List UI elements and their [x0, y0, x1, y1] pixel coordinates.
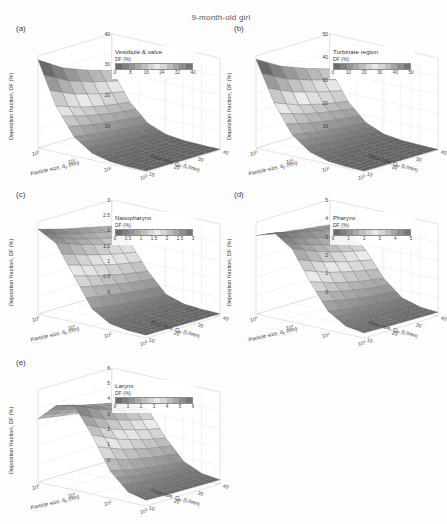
colorbar-ticks: 01020304050 [333, 70, 411, 77]
colorbar-segment [186, 398, 192, 403]
colorbar-tick: 0.5 [125, 236, 131, 241]
y-axis-tick: 5 [310, 197, 328, 203]
y-axis-tick: 0.5 [92, 273, 110, 279]
colorbar-tick: 0 [114, 404, 117, 409]
colorbar-tick: 5 [410, 236, 413, 241]
colorbar-tick: 2.5 [177, 236, 183, 241]
colorbar [333, 63, 411, 70]
panel-d: (d)Deposition fraction, DF (%)5432101001… [222, 188, 440, 348]
colorbar-tick: 2 [140, 404, 143, 409]
y-axis-tick: 6 [92, 365, 110, 371]
y-axis-tick: 10 [310, 123, 328, 129]
y-axis-tick: 3 [92, 411, 110, 417]
y-axis-tick: 30 [92, 61, 110, 67]
y-axis-tick: 3 [92, 197, 110, 203]
colorbar-tick: 0 [114, 70, 117, 75]
legend-unit-label: DF (%) [115, 222, 193, 228]
y-axis-tick: 40 [92, 31, 110, 37]
colorbar [115, 229, 193, 236]
panel-e: (e)Deposition fraction, DF (%)6543210100… [4, 356, 222, 518]
legend-region-title: Larynx [115, 382, 193, 389]
colorbar-tick: 3 [192, 236, 195, 241]
panel-b: (b)Deposition fraction, DF (%)5040302010… [222, 22, 440, 182]
y-axis-label: Deposition fraction, DF (%) [8, 206, 14, 306]
y-axis-tick: 5 [92, 380, 110, 386]
y-axis-label: Deposition fraction, DF (%) [8, 40, 14, 140]
y-axis-tick: 1 [92, 258, 110, 264]
y-axis-tick: 0 [310, 289, 328, 295]
legend-unit-label: DF (%) [115, 390, 193, 396]
legend: PharynxDF (%)012345 [330, 212, 414, 245]
colorbar [333, 229, 411, 236]
y-axis-tick: 2.5 [92, 212, 110, 218]
legend: Vestibule & valveDF (%)0816243240 [112, 46, 196, 79]
y-axis-tick: 20 [310, 100, 328, 106]
legend-unit-label: DF (%) [115, 56, 193, 62]
colorbar-tick: 3 [153, 404, 156, 409]
colorbar-segment [186, 64, 192, 69]
y-axis-label: Deposition fraction, DF (%) [226, 206, 232, 306]
y-axis-tick: 2 [310, 252, 328, 258]
legend-region-title: Turbinate region [333, 48, 411, 55]
y-axis-tick: 2 [92, 227, 110, 233]
colorbar-ticks: 00.511.522.53 [115, 236, 193, 243]
legend-unit-label: DF (%) [333, 222, 411, 228]
colorbar-tick: 2 [363, 236, 366, 241]
z-axis-tick: 40 [440, 314, 447, 321]
y-axis-tick: 4 [92, 395, 110, 401]
colorbar-tick: 0 [332, 70, 335, 75]
colorbar-tick: 4 [394, 236, 397, 241]
colorbar-tick: 16 [144, 70, 149, 75]
y-axis-label: Deposition fraction, DF (%) [8, 374, 14, 474]
y-axis-tick: 1 [310, 270, 328, 276]
colorbar-segment [186, 230, 192, 235]
y-axis-label: Deposition fraction, DF (%) [226, 40, 232, 140]
colorbar-tick: 0 [114, 236, 117, 241]
legend: NasopharynxDF (%)00.511.522.53 [112, 212, 196, 245]
colorbar-tick: 40 [190, 70, 195, 75]
colorbar-tick: 6 [192, 404, 195, 409]
y-axis-tick: 10 [92, 123, 110, 129]
colorbar-tick: 1 [347, 236, 350, 241]
z-axis-tick: 40 [222, 482, 229, 489]
legend-unit-label: DF (%) [333, 56, 411, 62]
z-axis-tick: 10 [366, 170, 373, 177]
colorbar-tick: 0 [332, 236, 335, 241]
colorbar-tick: 1 [140, 236, 143, 241]
colorbar-tick: 20 [362, 70, 367, 75]
colorbar-ticks: 0123456 [115, 404, 193, 411]
legend-region-title: Vestibule & valve [115, 48, 193, 55]
y-axis-tick: 20 [92, 92, 110, 98]
colorbar-ticks: 0816243240 [115, 70, 193, 77]
z-axis-tick: 40 [440, 148, 447, 155]
figure-title: 9-month-old girl [0, 13, 442, 22]
colorbar-tick: 1.5 [151, 236, 157, 241]
colorbar [115, 63, 193, 70]
colorbar-segment [404, 230, 410, 235]
legend-region-title: Nasopharynx [115, 214, 193, 221]
z-axis-tick: 10 [148, 170, 155, 177]
y-axis-tick: 1.5 [92, 243, 110, 249]
z-axis-tick: 10 [366, 336, 373, 343]
colorbar-ticks: 012345 [333, 236, 411, 243]
legend-region-title: Pharynx [333, 214, 411, 221]
colorbar-tick: 3 [379, 236, 382, 241]
y-axis-tick: 0 [92, 457, 110, 463]
colorbar-tick: 2 [166, 236, 169, 241]
colorbar-tick: 50 [408, 70, 413, 75]
colorbar-tick: 4 [166, 404, 169, 409]
panel-c: (c)Deposition fraction, DF (%)32.521.510… [4, 188, 222, 348]
y-axis-tick: 40 [310, 54, 328, 60]
legend: Turbinate regionDF (%)01020304050 [330, 46, 414, 79]
colorbar-tick: 24 [159, 70, 164, 75]
colorbar-tick: 5 [179, 404, 182, 409]
y-axis-tick: 2 [92, 426, 110, 432]
colorbar-tick: 1 [127, 404, 130, 409]
colorbar-tick: 8 [129, 70, 132, 75]
z-axis-tick: 10 [148, 504, 155, 511]
colorbar-tick: 30 [377, 70, 382, 75]
y-axis-tick: 4 [310, 215, 328, 221]
colorbar-tick: 40 [393, 70, 398, 75]
colorbar-segment [404, 64, 410, 69]
